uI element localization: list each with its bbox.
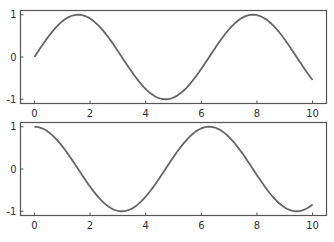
bottom-cosine-curve bbox=[34, 127, 312, 212]
bottom-axes: 0246810 -101 bbox=[7, 121, 327, 230]
x-tick-label: 4 bbox=[142, 108, 148, 119]
y-tick-label: -1 bbox=[7, 94, 17, 105]
x-tick-label: 10 bbox=[306, 108, 319, 119]
x-tick-label: 4 bbox=[142, 220, 148, 231]
top-sine-curve bbox=[34, 15, 312, 100]
x-tick-label: 10 bbox=[306, 220, 319, 231]
bottom-axes-frame bbox=[21, 123, 327, 216]
y-tick-label: -1 bbox=[7, 206, 17, 217]
x-tick-label: 6 bbox=[198, 220, 204, 231]
x-tick-label: 6 bbox=[198, 108, 204, 119]
y-tick-label: 1 bbox=[10, 9, 16, 20]
x-tick-label: 8 bbox=[254, 108, 260, 119]
y-tick-label: 1 bbox=[10, 121, 16, 132]
x-tick-label: 2 bbox=[87, 108, 93, 119]
x-tick-label: 0 bbox=[31, 108, 37, 119]
y-tick-label: 0 bbox=[10, 52, 16, 63]
figure: 0246810 -101 0246810 -101 bbox=[0, 0, 334, 242]
top-axes: 0246810 -101 bbox=[7, 9, 327, 118]
y-tick-label: 0 bbox=[10, 164, 16, 175]
x-tick-label: 8 bbox=[254, 220, 260, 231]
x-tick-label: 0 bbox=[31, 220, 37, 231]
top-axes-frame bbox=[21, 11, 327, 104]
x-tick-label: 2 bbox=[87, 220, 93, 231]
